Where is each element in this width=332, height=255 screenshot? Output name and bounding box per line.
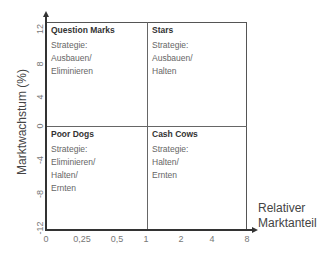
strategy-item: Halten xyxy=(152,65,193,78)
x-axis-label: Relativer Marktanteil xyxy=(258,201,317,231)
strategy-item: Ausbauen/ xyxy=(152,52,193,65)
strategy-item: Eliminieren xyxy=(51,65,115,78)
strategy-label: Strategie: xyxy=(152,143,198,156)
quadrant-title: Cash Cows xyxy=(152,128,198,141)
y-axis-line xyxy=(45,14,47,230)
strategy-item: Eliminieren/ xyxy=(51,156,95,169)
y-tick: -4 xyxy=(35,150,45,170)
y-tick: 0 xyxy=(35,116,45,136)
x-tick: 2 xyxy=(178,234,183,244)
strategy-item: Halten/ xyxy=(152,156,198,169)
x-axis-label-line2: Marktanteil xyxy=(258,216,317,231)
strategy-label: Strategie: xyxy=(51,39,115,52)
x-axis-label-line1: Relativer xyxy=(258,201,317,216)
quadrant-poor-dogs: Poor Dogs Strategie: Eliminieren/ Halten… xyxy=(51,128,95,195)
y-axis-arrow-icon xyxy=(43,11,49,17)
strategy-item: Ernten xyxy=(51,182,95,195)
quadrant-question-marks: Question Marks Strategie: Ausbauen/ Elim… xyxy=(51,24,115,78)
y-tick: -8 xyxy=(35,184,45,204)
horizontal-divider xyxy=(46,126,247,127)
y-axis-label: Marktwachstum (%) xyxy=(15,75,29,175)
x-tick: 8 xyxy=(244,234,249,244)
x-tick: 1 xyxy=(143,234,148,244)
x-tick: 0,5 xyxy=(111,234,124,244)
quadrant-stars: Stars Strategie: Ausbauen/ Halten xyxy=(152,24,193,78)
strategy-item: Halten/ xyxy=(51,169,95,182)
quadrant-cash-cows: Cash Cows Strategie: Halten/ Ernten xyxy=(152,128,198,182)
x-tick: 0 xyxy=(43,234,48,244)
y-tick: 8 xyxy=(35,54,45,74)
x-tick: 0,25 xyxy=(73,234,91,244)
quadrant-title: Question Marks xyxy=(51,24,115,37)
quadrant-title: Stars xyxy=(152,24,193,37)
strategy-item: Ernten xyxy=(152,169,198,182)
y-tick: 4 xyxy=(35,87,45,107)
x-axis-line xyxy=(45,229,253,231)
strategy-label: Strategie: xyxy=(152,39,193,52)
x-tick: 4 xyxy=(209,234,214,244)
quadrant-title: Poor Dogs xyxy=(51,128,95,141)
y-tick: 12 xyxy=(35,19,45,39)
strategy-label: Strategie: xyxy=(51,143,95,156)
strategy-item: Ausbauen/ xyxy=(51,52,115,65)
